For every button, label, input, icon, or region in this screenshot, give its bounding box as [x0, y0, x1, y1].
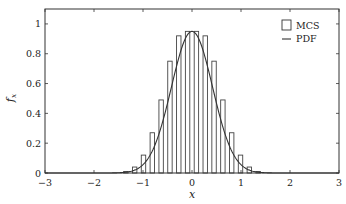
histogram-bar — [194, 31, 198, 173]
x-tick-label: 2 — [287, 177, 293, 188]
x-tick-label: −2 — [87, 177, 101, 188]
histogram-bar — [168, 61, 172, 173]
histogram-bar — [159, 100, 163, 173]
legend: MCS PDF — [282, 20, 320, 44]
y-tick-label: 0 — [35, 168, 41, 179]
y-tick-label: 0.6 — [26, 78, 41, 89]
histogram-bar — [221, 100, 225, 173]
x-tick-label: 3 — [336, 177, 342, 188]
pdf-curve — [45, 31, 339, 173]
legend-mcs-swatch — [282, 20, 291, 30]
y-axis-ticks: 00.20.40.60.81 — [26, 18, 339, 178]
histogram-chart: −3−2−10123 00.20.40.60.81 x fx MCS PDF — [0, 0, 346, 204]
x-tick-label: 1 — [238, 177, 244, 188]
x-axis-label: x — [189, 188, 196, 201]
legend-pdf-label: PDF — [296, 33, 317, 44]
y-tick-label: 1 — [35, 18, 41, 29]
x-tick-label: −3 — [38, 177, 52, 188]
y-axis-label: fx — [4, 93, 18, 103]
histogram-bar — [185, 31, 189, 173]
y-tick-label: 0.8 — [26, 48, 41, 59]
histogram-bar — [212, 61, 216, 173]
mcs-histogram-bars — [124, 31, 261, 173]
y-tick-label: 0.4 — [26, 108, 41, 119]
plot-frame — [45, 9, 339, 173]
legend-mcs-label: MCS — [296, 20, 320, 31]
x-tick-label: −1 — [136, 177, 150, 188]
x-tick-label: 0 — [189, 177, 195, 188]
y-tick-label: 0.2 — [26, 138, 41, 149]
